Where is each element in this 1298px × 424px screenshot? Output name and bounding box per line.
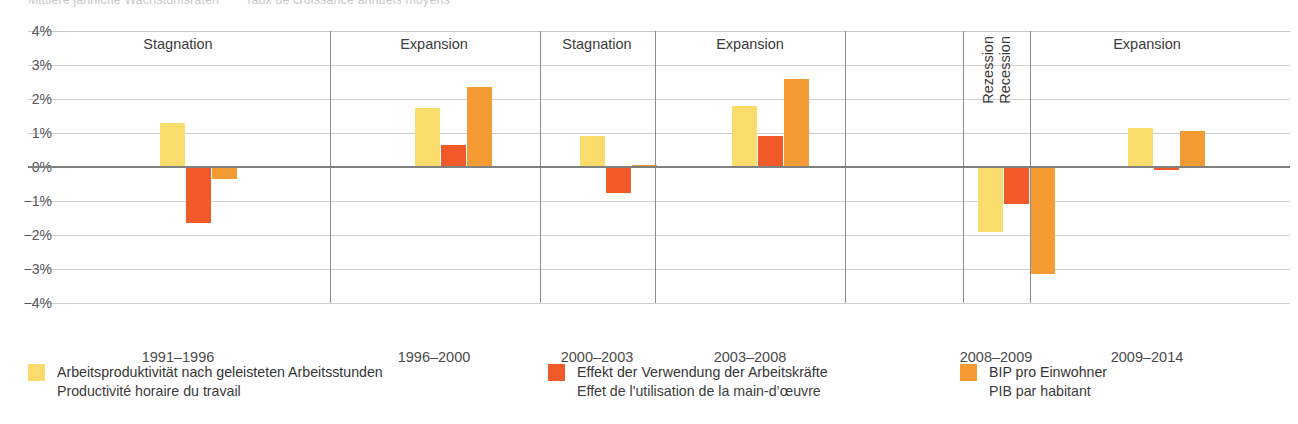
bar bbox=[186, 167, 211, 223]
y-axis-tick-label: 2% bbox=[12, 91, 52, 107]
gridline bbox=[28, 65, 1290, 66]
bar bbox=[467, 87, 492, 167]
gridline bbox=[28, 303, 1290, 304]
bar bbox=[1180, 131, 1205, 167]
legend-label-de: BIP pro Einwohner bbox=[989, 363, 1107, 382]
gridline bbox=[28, 31, 1290, 32]
phase-label-6: Expansion bbox=[1113, 36, 1181, 52]
y-axis-tick-label: −1% bbox=[12, 193, 52, 209]
legend-label-de: Effekt der Verwendung der Arbeitskräfte bbox=[577, 363, 828, 382]
y-axis-tick-label: −3% bbox=[12, 261, 52, 277]
legend: Arbeitsproduktivität nach geleisteten Ar… bbox=[0, 363, 1298, 418]
y-axis-tick-label: −4% bbox=[12, 295, 52, 311]
legend-color-swatch bbox=[28, 364, 45, 381]
legend-entry-1[interactable]: Arbeitsproduktivität nach geleisteten Ar… bbox=[28, 363, 383, 401]
y-axis-tick-label: 3% bbox=[12, 57, 52, 73]
legend-color-swatch bbox=[548, 364, 565, 381]
legend-label: Effekt der Verwendung der ArbeitskräfteE… bbox=[577, 363, 828, 401]
phase-label-fr: Recession bbox=[997, 36, 1012, 104]
legend-color-swatch bbox=[960, 364, 977, 381]
bar bbox=[212, 167, 237, 179]
legend-entry-2[interactable]: Effekt der Verwendung der ArbeitskräfteE… bbox=[548, 363, 828, 401]
phase-label-1: Stagnation bbox=[143, 36, 212, 52]
bar bbox=[580, 136, 605, 167]
y-axis-tick-label: 1% bbox=[12, 125, 52, 141]
gridline bbox=[28, 201, 1290, 202]
legend-label-fr: Effet de l'utilisation de la main-d’œuvr… bbox=[577, 382, 828, 401]
phase-label-4: Expansion bbox=[716, 36, 784, 52]
bar bbox=[1004, 167, 1029, 204]
gridline bbox=[28, 99, 1290, 100]
phase-label-5: RezessionRecession bbox=[981, 36, 1012, 104]
bar bbox=[441, 145, 466, 167]
chart-title-fr: Taux de croissance annuels moyens bbox=[245, 0, 450, 7]
legend-label-fr: PIB par habitant bbox=[989, 382, 1107, 401]
bar bbox=[415, 108, 440, 168]
bar bbox=[1030, 167, 1055, 274]
bar bbox=[1128, 128, 1153, 167]
legend-label: BIP pro EinwohnerPIB par habitant bbox=[989, 363, 1107, 401]
legend-entry-3[interactable]: BIP pro EinwohnerPIB par habitant bbox=[960, 363, 1107, 401]
plot-area: 4%3%2%1%0%−1%−2%−3%−4% StagnationExpansi… bbox=[28, 31, 1290, 303]
bar bbox=[784, 79, 809, 167]
bar bbox=[160, 123, 185, 167]
gridline bbox=[28, 133, 1290, 134]
bar bbox=[978, 167, 1003, 232]
gridline bbox=[28, 269, 1290, 270]
chart-title-de: Mittlere jährliche Wachstumsraten bbox=[28, 0, 219, 7]
y-axis-tick-label: −2% bbox=[12, 227, 52, 243]
phase-label-2: Expansion bbox=[400, 36, 468, 52]
chart-title: Mittlere jährliche WachstumsratenTaux de… bbox=[28, 0, 450, 7]
zero-axis-line bbox=[28, 166, 1290, 168]
phase-label-de: Rezession bbox=[981, 36, 996, 104]
bar bbox=[732, 106, 757, 167]
bar bbox=[758, 136, 783, 167]
y-axis-tick-label: 4% bbox=[12, 23, 52, 39]
phase-label-3: Stagnation bbox=[562, 36, 631, 52]
gridline bbox=[28, 235, 1290, 236]
legend-label-fr: Productivité horaire du travail bbox=[57, 382, 383, 401]
legend-label: Arbeitsproduktivität nach geleisteten Ar… bbox=[57, 363, 383, 401]
bar bbox=[606, 167, 631, 193]
legend-label-de: Arbeitsproduktivität nach geleisteten Ar… bbox=[57, 363, 383, 382]
